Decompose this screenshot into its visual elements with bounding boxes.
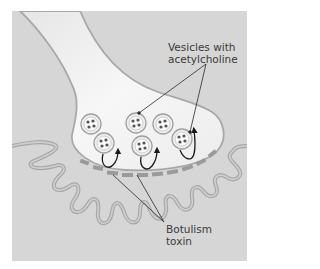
vesicle <box>132 136 152 156</box>
vesicle <box>81 114 101 134</box>
vesicles-label: Vesicles with acetylcholine <box>168 41 238 65</box>
vesicle <box>94 133 114 153</box>
vesicle <box>153 114 173 134</box>
vesicles-label-line2: acetylcholine <box>168 53 238 65</box>
botulism-toxin-label: Botulism toxin <box>166 223 212 247</box>
toxin-label-line1: Botulism <box>166 223 212 235</box>
vesicle <box>126 113 146 133</box>
vesicles-label-line1: Vesicles with <box>168 41 238 53</box>
toxin-label-line2: toxin <box>166 235 212 247</box>
